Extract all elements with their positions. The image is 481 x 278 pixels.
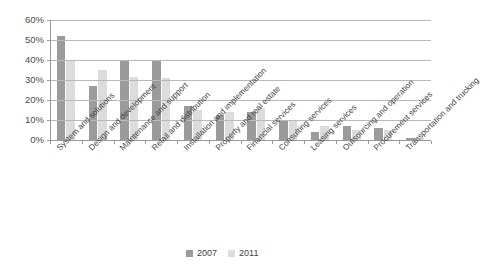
chart-legend: 20072011 (186, 249, 258, 258)
y-axis-tick-label: 10% (25, 115, 44, 124)
legend-swatch-icon (228, 250, 235, 257)
y-axis-tick-label: 30% (25, 75, 44, 84)
bar-2007-1 (57, 36, 66, 140)
legend-item-2007[interactable]: 2007 (186, 249, 217, 258)
legend-item-2011[interactable]: 2011 (228, 249, 258, 258)
legend-label: 2011 (239, 249, 258, 258)
x-axis-category-labels: System and solutionsDesign and developme… (0, 143, 442, 253)
y-axis-tick (47, 120, 51, 121)
y-axis-tick-label: 60% (25, 15, 44, 24)
y-axis-tick-label: 50% (25, 35, 44, 44)
y-axis-tick (47, 20, 51, 21)
y-axis-tick-label: 40% (25, 55, 44, 64)
gridline (50, 80, 431, 81)
y-axis-tick (47, 100, 51, 101)
gridline (50, 60, 431, 61)
legend-label: 2007 (197, 249, 217, 258)
y-axis-tick (47, 60, 51, 61)
gridline (50, 20, 431, 21)
y-axis-tick (47, 40, 51, 41)
y-axis-tick-label: 20% (25, 95, 44, 104)
y-axis-labels: 0%10%20%30%40%50%60% (0, 0, 48, 150)
legend-swatch-icon (186, 250, 193, 257)
y-axis-tick (47, 80, 51, 81)
gridline (50, 40, 431, 41)
